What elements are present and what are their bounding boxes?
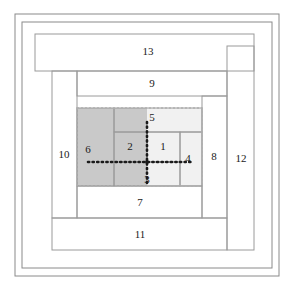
tile-label-6: 6 <box>85 143 91 155</box>
tile-label-12: 12 <box>236 152 247 164</box>
tile-label-10: 10 <box>59 148 71 160</box>
tile-label-9: 9 <box>149 77 155 89</box>
tile-label-5: 5 <box>149 111 155 123</box>
tile-label-2: 2 <box>127 140 133 152</box>
spiral-tiling-diagram: 12345678910111213 <box>0 0 294 291</box>
tile-label-13: 13 <box>143 45 155 57</box>
tile-label-1: 1 <box>160 140 166 152</box>
shaded-region-group <box>77 108 202 186</box>
tile-label-8: 8 <box>211 150 217 162</box>
tile-label-3: 3 <box>144 173 150 185</box>
origin-point <box>145 160 149 164</box>
tile-label-11: 11 <box>135 228 146 240</box>
tile-label-4: 4 <box>185 152 191 164</box>
figure-root: 12345678910111213 <box>0 0 294 291</box>
tile-label-7: 7 <box>137 196 143 208</box>
